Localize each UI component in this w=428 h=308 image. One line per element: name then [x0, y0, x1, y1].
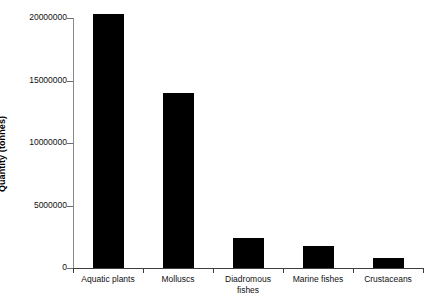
x-axis-category-label: Molluscs	[139, 274, 217, 285]
bar	[303, 246, 334, 269]
y-tick-mark	[67, 81, 73, 82]
y-tick-mark	[67, 206, 73, 207]
y-tick-label: 0	[0, 262, 67, 272]
y-axis-line	[73, 18, 74, 268]
y-axis-title-label: Quantity (tonnes)	[0, 116, 7, 192]
x-tick-mark	[73, 268, 74, 273]
x-axis-category-label: Aquatic plants	[69, 274, 147, 285]
y-tick-mark	[67, 18, 73, 19]
y-tick-label: 20000000	[0, 12, 67, 22]
x-axis-category-label-line: Molluscs	[139, 274, 217, 285]
y-tick-label: 15000000	[0, 75, 67, 85]
x-axis-category-label-line: Aquatic plants	[69, 274, 147, 285]
x-tick-mark	[283, 268, 284, 273]
x-tick-mark	[353, 268, 354, 273]
bar	[93, 14, 124, 268]
x-axis-category-label-line: fishes	[209, 285, 287, 296]
bar	[373, 258, 404, 268]
y-tick-label: 5000000	[0, 200, 67, 210]
y-tick-label: 10000000	[0, 137, 67, 147]
x-tick-mark	[423, 268, 424, 273]
bar	[163, 93, 194, 268]
x-axis-category-label-line: Diadromous	[209, 274, 287, 285]
y-tick-mark	[67, 143, 73, 144]
bar-chart: Quantity (tonnes) 0500000010000000150000…	[0, 0, 428, 308]
x-axis-line	[73, 268, 423, 269]
x-axis-category-label-line: Marine fishes	[279, 274, 357, 285]
x-tick-mark	[143, 268, 144, 273]
x-axis-category-label: Diadromousfishes	[209, 274, 287, 295]
x-axis-category-label: Marine fishes	[279, 274, 357, 285]
bar	[233, 238, 264, 268]
x-axis-category-label: Crustaceans	[349, 274, 427, 285]
x-tick-mark	[213, 268, 214, 273]
x-axis-category-label-line: Crustaceans	[349, 274, 427, 285]
